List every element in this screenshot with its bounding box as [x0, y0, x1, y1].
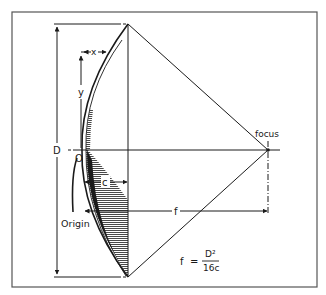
dish-hatching-upper [86, 110, 93, 150]
label-x: x [91, 47, 97, 57]
label-y: y [78, 87, 84, 98]
label-focus: focus [255, 129, 279, 139]
focal-length-formula: f = D² 16c [180, 249, 219, 273]
ray-top [128, 24, 268, 150]
formula-numerator: D² [205, 249, 216, 259]
label-f: f [174, 206, 178, 217]
origin-leader [73, 158, 78, 212]
formula-equals: = [190, 256, 198, 267]
formula-lhs: f [180, 256, 184, 267]
label-origin: Origin [61, 218, 90, 229]
parabolic-dish-diagram: D y x O c f focus Origin f = D² 16c [0, 0, 326, 295]
focus-point [266, 148, 270, 152]
label-c: c [102, 177, 108, 188]
label-D: D [53, 145, 61, 156]
formula-denominator: 16c [203, 263, 219, 273]
